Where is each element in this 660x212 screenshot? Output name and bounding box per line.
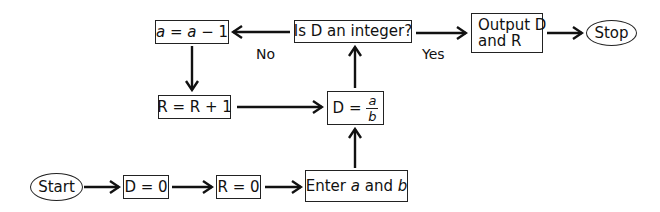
- edge-label-yes: Yes: [422, 46, 445, 62]
- r-zero-label: R = 0: [217, 179, 259, 196]
- fraction-denominator: b: [368, 109, 376, 123]
- d-zero-label: D = 0: [124, 179, 167, 196]
- fraction-numerator: a: [366, 94, 378, 109]
- decrement-minus-one: − 1: [196, 24, 228, 41]
- enter-var-a: a: [351, 178, 360, 195]
- decrement-equals: =: [165, 24, 187, 41]
- decision-box: Is D an integer?: [294, 20, 412, 43]
- increment-box: R = R + 1: [158, 95, 231, 119]
- divide-prefix: D =: [333, 100, 362, 117]
- decision-label: Is D an integer?: [294, 23, 412, 40]
- output-line1: Output D: [478, 17, 546, 34]
- edge-label-no: No: [256, 46, 275, 62]
- start-terminal: Start: [30, 173, 83, 201]
- decrement-var-a2: a: [187, 24, 196, 41]
- enter-box: Enter a and b: [305, 170, 408, 202]
- decrement-var-a1: a: [156, 24, 165, 41]
- stop-terminal: Stop: [586, 20, 637, 46]
- decrement-box: a = a − 1: [155, 20, 229, 44]
- increment-label: R = R + 1: [157, 99, 232, 116]
- enter-prefix: Enter: [306, 178, 351, 195]
- fraction-a-over-b: a b: [366, 94, 378, 123]
- enter-var-b: b: [398, 178, 408, 195]
- r-zero-box: R = 0: [216, 175, 261, 199]
- enter-and: and: [360, 178, 398, 195]
- output-line2: and R: [478, 33, 521, 50]
- stop-label: Stop: [594, 25, 628, 42]
- output-box: Output D and R: [471, 13, 543, 53]
- d-zero-box: D = 0: [123, 175, 169, 199]
- start-label: Start: [38, 179, 75, 196]
- divide-box: D = a b: [327, 91, 384, 125]
